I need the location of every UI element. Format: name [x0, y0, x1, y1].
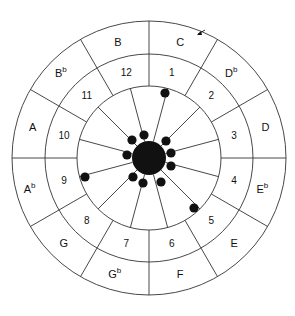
note-name: A — [29, 121, 37, 133]
hub-dot — [127, 135, 136, 144]
hub-disc — [132, 141, 166, 175]
sector-number: 10 — [58, 130, 70, 141]
hub-dot — [122, 150, 131, 159]
hub-dot — [161, 136, 170, 145]
sector-number: 11 — [82, 90, 93, 101]
rim-dot — [189, 203, 198, 212]
sector-number: 7 — [123, 238, 129, 249]
note-name: Eb — [256, 181, 268, 195]
hub-dot — [166, 148, 175, 157]
note-name: Gb — [108, 266, 122, 280]
rim-dot — [80, 172, 89, 181]
sector-number: 1 — [169, 67, 175, 78]
note-name: Db — [225, 65, 238, 79]
hub-dot — [138, 178, 147, 187]
spoke — [161, 170, 200, 209]
hub-dot — [139, 130, 148, 139]
sector-number: 4 — [231, 175, 237, 186]
hub-dot — [156, 177, 165, 186]
sector-boundary — [185, 39, 218, 95]
hub-dot — [166, 161, 175, 170]
sector-boundary — [185, 220, 218, 276]
sector-boundary — [211, 90, 267, 123]
note-name: G — [60, 237, 69, 249]
sector-number: 2 — [208, 90, 214, 101]
sector-number: 3 — [231, 130, 237, 141]
hub-dot — [128, 172, 137, 181]
sector-boundary — [30, 90, 86, 123]
note-name: D — [261, 121, 269, 133]
pitch-class-wheel: 123456789101112 CDbDEbEFGbGAbABbB — [0, 0, 295, 316]
note-name: Bb — [55, 65, 67, 79]
sector-boundary — [211, 194, 267, 227]
note-name: C — [176, 36, 184, 48]
note-name: Ab — [24, 181, 36, 195]
sector-number: 8 — [84, 215, 90, 226]
note-name: F — [177, 268, 184, 280]
note-name: E — [231, 237, 238, 249]
note-name: B — [114, 36, 121, 48]
sector-number: 9 — [61, 175, 67, 186]
sector-number: 5 — [208, 215, 214, 226]
rim-dot — [160, 88, 169, 97]
sector-boundary — [81, 39, 114, 95]
sector-boundary — [30, 194, 86, 227]
sector-number: 6 — [169, 238, 175, 249]
sector-number: 12 — [121, 67, 133, 78]
